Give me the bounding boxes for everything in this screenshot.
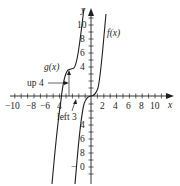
- x-tick-label: −8: [26, 101, 36, 111]
- y-tick-label: 8: [80, 148, 85, 158]
- up-4-label: up 4: [27, 78, 44, 88]
- arrow-right-icon: [64, 81, 69, 85]
- x-tick-label: 4: [113, 101, 118, 111]
- x-tick-label: 6: [126, 101, 131, 111]
- y-tick-label: −: [71, 162, 76, 172]
- x-tick-label: 10: [150, 101, 160, 111]
- y-tick-label: 6: [80, 48, 85, 58]
- x-tick-label: −10: [5, 101, 20, 111]
- y-axis-arrow-icon: [88, 8, 94, 16]
- g-label: g(x): [44, 62, 59, 73]
- f-label: f(x): [107, 28, 120, 39]
- y-tick-label: 4: [80, 62, 85, 72]
- x-tick-label: 2: [100, 101, 105, 111]
- arrow-up-right-icon: [73, 99, 77, 104]
- x-tick-label: −6: [40, 101, 50, 111]
- x-axis-arrow-icon: [166, 93, 174, 99]
- x-axis-label: x: [167, 100, 173, 110]
- y-tick-label: 6: [80, 134, 85, 144]
- graph: x y −10 −8 −6 4 2 4 6 8 10 10 8 6 4 4 6 …: [0, 0, 180, 186]
- left-3-label: left 3: [57, 112, 77, 122]
- y-tick-label: 0: [80, 162, 85, 172]
- x-tick-label: 8: [139, 101, 144, 111]
